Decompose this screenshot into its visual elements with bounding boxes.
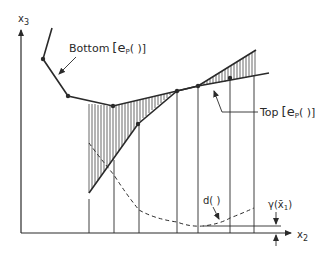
d-label: d( ) bbox=[203, 195, 220, 206]
top-label: Top[eP( )] bbox=[259, 104, 315, 120]
bottom-leader bbox=[59, 57, 76, 74]
d-leader bbox=[213, 207, 219, 219]
gamma-label: γ(x̄1) bbox=[268, 199, 292, 212]
top-leader bbox=[214, 91, 258, 112]
axes bbox=[21, 30, 291, 233]
vertex-points bbox=[41, 57, 232, 126]
vertical-guides bbox=[89, 75, 254, 233]
y-axis-label: x3 bbox=[18, 13, 29, 27]
x-axis-label: x2 bbox=[297, 229, 308, 243]
bottom-label: Bottom[eP( )] bbox=[69, 40, 146, 56]
gamma-marker bbox=[203, 212, 281, 246]
bottom-curve bbox=[43, 28, 269, 106]
envelope-diagram: x3 x2 Bottom[eP( )] Top[eP( )] d( ) γ(x̄… bbox=[0, 0, 328, 257]
diagram-canvas: x3 x2 Bottom[eP( )] Top[eP( )] d( ) γ(x̄… bbox=[0, 0, 328, 257]
